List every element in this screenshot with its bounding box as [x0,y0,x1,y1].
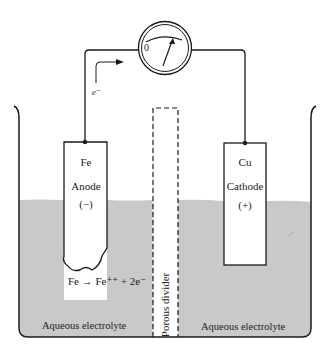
anode-sign: (−) [79,199,93,210]
reaction-equation: Fe → Fe⁺⁺ + 2e⁻ [68,276,146,287]
circuit-wire-right [192,50,245,143]
electron-label: e⁻ [92,88,101,97]
cathode-element: Cu [239,157,252,168]
electrolyte-right-label: Aqueous electrolyte [201,322,285,333]
cathode-name: Cathode [227,181,264,192]
anode-element: Fe [81,157,92,168]
meter-zero-label: 0 [144,43,149,53]
cathode-sign: (+) [238,200,252,211]
electron-flow-arrow-icon [96,59,124,83]
divider-label: Porous divider [160,273,171,337]
electrolyte-left-label: Aqueous electrolyte [42,321,126,332]
anode-name: Anode [71,181,100,192]
